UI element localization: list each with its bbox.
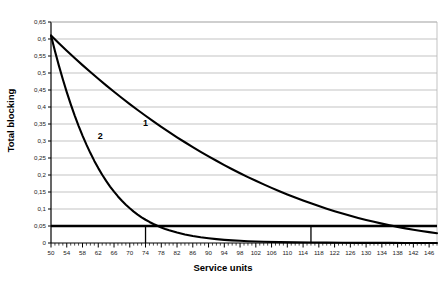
y-tick-label: 0,35 (34, 120, 47, 127)
series-label-1: 1 (143, 118, 148, 128)
x-tick-label: 102 (251, 249, 262, 256)
y-tick-label: 0,3 (37, 137, 46, 144)
x-tick-label: 122 (329, 249, 340, 256)
y-tick-label: 0,2 (37, 171, 46, 178)
x-tick-label: 98 (237, 249, 244, 256)
y-tick-label: 0,05 (34, 222, 47, 229)
y-tick-label: 0,1 (37, 205, 46, 212)
x-tick-label: 66 (111, 249, 118, 256)
x-tick-label: 54 (63, 249, 70, 256)
x-tick-label: 138 (392, 249, 403, 256)
chart-plot-svg: 00,050,10,150,20,250,30,350,40,450,50,55… (0, 0, 446, 287)
series-label-2: 2 (98, 131, 103, 141)
y-axis-title-container: Total blocking (2, 0, 20, 240)
x-tick-label: 94 (221, 249, 228, 256)
y-tick-label: 0,25 (34, 154, 47, 161)
y-tick-label: 0,55 (34, 52, 47, 59)
x-tick-label: 78 (158, 249, 165, 256)
y-tick-label: 0,5 (37, 69, 46, 76)
chart-container: 00,050,10,150,20,250,30,350,40,450,50,55… (0, 0, 446, 287)
x-tick-label: 118 (314, 249, 324, 256)
y-axis-title: Total blocking (6, 88, 17, 152)
y-tick-label: 0,15 (34, 188, 47, 195)
y-tick-label: 0,65 (34, 18, 47, 25)
y-tick-label: 0 (43, 239, 47, 246)
x-tick-label: 70 (126, 249, 133, 256)
x-tick-label: 62 (95, 249, 102, 256)
x-tick-label: 142 (408, 249, 419, 256)
x-tick-label: 146 (424, 249, 435, 256)
x-tick-label: 82 (174, 249, 181, 256)
x-tick-label: 130 (361, 249, 372, 256)
x-tick-label: 90 (205, 249, 212, 256)
x-tick-label: 110 (282, 249, 292, 256)
x-tick-label: 114 (298, 249, 308, 256)
x-tick-label: 50 (48, 249, 55, 256)
x-tick-label: 58 (79, 249, 86, 256)
x-tick-label: 86 (189, 249, 196, 256)
y-tick-label: 0,4 (37, 103, 46, 110)
x-axis-title: Service units (0, 262, 446, 273)
x-tick-label: 106 (266, 249, 277, 256)
x-tick-label: 134 (377, 249, 388, 256)
y-tick-label: 0,45 (34, 86, 47, 93)
y-tick-label: 0,6 (37, 35, 46, 42)
x-tick-label: 126 (345, 249, 356, 256)
x-tick-label: 74 (142, 249, 149, 256)
